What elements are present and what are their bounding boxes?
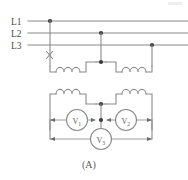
- voltmeter-v1[interactable]: V1: [67, 110, 88, 131]
- bus-label-l3: L3: [11, 41, 22, 51]
- scan-noise: [168, 2, 182, 5]
- arrow-right-v1: [91, 118, 96, 122]
- junction-dot-center-tap: [99, 118, 103, 122]
- arrow-left-v2: [106, 118, 111, 122]
- voltmeter-v2[interactable]: V2: [116, 110, 137, 131]
- circuit-diagram: L1 L2 L3: [0, 0, 188, 180]
- bus-label-l1: L1: [11, 17, 22, 27]
- arrow-right-v3: [147, 137, 152, 141]
- bus-label-l2: L2: [11, 29, 22, 39]
- bus-line-l2: [28, 31, 188, 35]
- coil-primary-right: [106, 62, 152, 72]
- junction-dot-primary-center: [99, 60, 103, 64]
- arrow-right-v2: [147, 118, 152, 122]
- coil-primary-left: [50, 62, 96, 72]
- bus-line-l3: [28, 43, 188, 47]
- voltmeter-v3[interactable]: V3: [91, 129, 112, 150]
- arrow-left-v3: [50, 137, 55, 141]
- figure-caption: (A): [82, 159, 96, 171]
- bus-line-l1: [28, 19, 188, 23]
- arrow-left-v1: [50, 118, 55, 122]
